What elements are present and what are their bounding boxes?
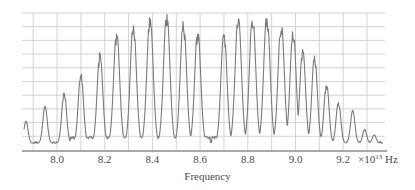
x-tick-label: 8.0 [50, 153, 64, 165]
x-axis-label: Frequency [0, 170, 415, 182]
x-tick-label: 8.4 [146, 153, 160, 165]
x-unit-label: ×1013 Hz [358, 153, 398, 165]
x-tick-label: 8.6 [193, 153, 207, 165]
spectrum-trace [24, 15, 383, 144]
x-tick-label: 8.8 [241, 153, 255, 165]
x-tick-label: 9.0 [289, 153, 303, 165]
x-tick-label: 8.2 [98, 153, 112, 165]
x-tick-label: 9.2 [336, 153, 350, 165]
